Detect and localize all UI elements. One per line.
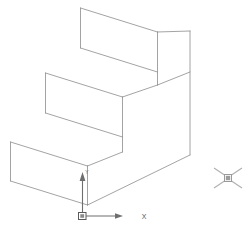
ucs-x-axis-label: X	[142, 213, 147, 220]
edge-mid-step-top-rear	[46, 73, 123, 97]
crosshair-pickbox-cursor[interactable]	[214, 168, 242, 188]
edge-top-step-tread-front-right	[158, 72, 191, 85]
drawing-canvas[interactable]: X Y	[0, 0, 251, 236]
edge-top-step-bottom-front	[81, 48, 158, 72]
edge-top-step-top-rear	[81, 8, 158, 32]
cursor-arm-upper-left	[214, 168, 225, 175]
edge-top-step-tread-to-back	[158, 31, 191, 32]
cursor-arm-lower-left	[214, 181, 225, 188]
ucs-x-axis-arrowhead	[115, 213, 123, 219]
edge-bottom-front-right-diagonal	[88, 155, 191, 205]
cursor-arm-upper-right	[232, 168, 243, 175]
ucs-origin-box-fill	[80, 214, 84, 218]
cad-drawing-area[interactable]: X Y	[0, 0, 251, 236]
cursor-arm-lower-right	[232, 181, 243, 188]
edge-bot-step-bottom-front	[11, 181, 88, 205]
ucs-y-axis-label: Y	[85, 169, 89, 175]
edge-bot-step-top-rear	[11, 142, 88, 166]
stepped-solid-geometry	[11, 8, 191, 205]
edge-mid-step-bottom-front	[46, 113, 123, 137]
cursor-pickbox-fill	[226, 176, 230, 180]
edge-mid-step-tread-to-upper-riser	[123, 85, 158, 97]
ucs-coordinate-icon[interactable]: X Y	[79, 169, 147, 220]
edge-bot-step-tread-to-mid-riser	[88, 152, 123, 166]
